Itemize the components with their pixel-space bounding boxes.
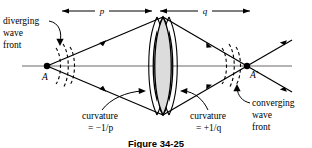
converging-wavefront-line-1: converging: [252, 98, 295, 108]
curvature-left-line-1: curvature: [82, 111, 118, 121]
object-point-label: A: [41, 72, 48, 82]
optics-lens-figure: p q: [0, 0, 312, 148]
curvature-left-line-2: = −1/p: [88, 123, 113, 133]
image-point-label: A′: [249, 70, 259, 80]
dimension-q: q: [160, 5, 250, 17]
converging-lens: [149, 17, 178, 115]
diverging-wavefront-line-1: diverging: [3, 16, 39, 26]
image-point: A′: [244, 63, 259, 80]
converging-wavefront-line-2: wave: [252, 110, 272, 120]
curvature-right-line-1: curvature: [190, 111, 226, 121]
dimension-p: p: [62, 5, 152, 17]
curvature-right-line-2: = +1/q: [196, 123, 221, 133]
diverging-wavefront-line-2: wave: [3, 28, 23, 38]
diverging-wavefront-label: diverging wave front: [3, 16, 64, 50]
diverging-wavefront-line-3: front: [3, 40, 22, 50]
converging-wavefront-line-3: front: [252, 122, 271, 132]
figure-caption: Figure 34-25: [128, 138, 185, 148]
dimension-q-label: q: [203, 6, 208, 16]
dimension-p-label: p: [99, 6, 105, 16]
curvature-right-label: curvature = +1/q: [180, 88, 226, 133]
curvature-left-leader: [102, 91, 142, 110]
